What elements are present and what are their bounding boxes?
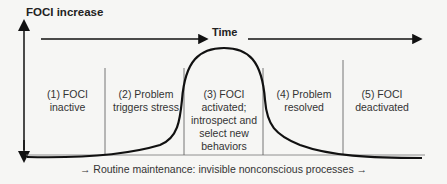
time-label: Time	[209, 26, 240, 38]
phase-2-label: (2) Problem triggers stress	[110, 88, 182, 114]
phase-3-label: (3) FOCI activated; introspect and selec…	[186, 88, 262, 153]
footer-caption: → Routine maintenance: invisible noncons…	[0, 163, 447, 175]
phase-5-label: (5) FOCI deactivated	[346, 88, 418, 114]
phase-1-label: (1) FOCI inactive	[30, 88, 105, 114]
phase-4-label: (4) Problem resolved	[268, 88, 340, 114]
y-axis-label: FOCI increase	[26, 6, 103, 18]
